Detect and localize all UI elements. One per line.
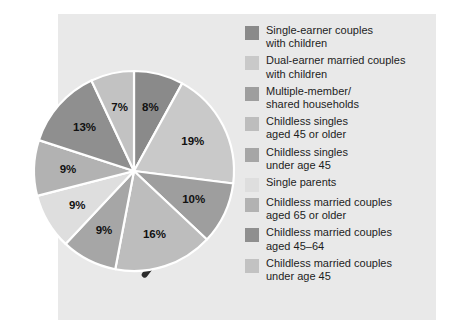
chart-legend: Single-earner couples with childrenDual-… <box>245 24 440 287</box>
pie-slice-value-label: 9% <box>69 199 86 211</box>
legend-color-swatch <box>245 259 259 273</box>
pie-slice-value-label: 8% <box>142 101 159 113</box>
legend-color-swatch <box>245 117 259 131</box>
pie-slice-value-label: 16% <box>143 228 166 240</box>
pie-slice-value-label: 13% <box>73 121 96 133</box>
legend-item[interactable]: Childless singles aged 45 or older <box>245 115 440 141</box>
pie-slice-value-label: 9% <box>60 163 77 175</box>
legend-item[interactable]: Single-earner couples with children <box>245 24 440 50</box>
legend-item-label: Childless married couples aged 45–64 <box>266 226 392 252</box>
pie-slice-value-label: 9% <box>96 224 113 236</box>
legend-item[interactable]: Childless married couples under age 45 <box>245 257 440 283</box>
legend-item[interactable]: Childless married couples aged 65 or old… <box>245 196 440 222</box>
pie-slice-value-label: 10% <box>182 193 205 205</box>
legend-color-swatch <box>245 26 259 40</box>
legend-color-swatch <box>245 178 259 192</box>
legend-item[interactable]: Multiple-member/ shared households <box>245 85 440 111</box>
legend-item-label: Single-earner couples with children <box>266 24 373 50</box>
legend-color-swatch <box>245 87 259 101</box>
legend-item-label: Childless married couples aged 65 or old… <box>266 196 392 222</box>
pie-svg: 8%19%10%16%9%9%9%13%7% <box>18 55 250 287</box>
legend-item-label: Childless singles under age 45 <box>266 146 348 172</box>
legend-color-swatch <box>245 148 259 162</box>
legend-item-label: Childless married couples under age 45 <box>266 257 392 283</box>
legend-item[interactable]: Dual-earner married couples with childre… <box>245 54 440 80</box>
pie-chart-figure: 8%19%10%16%9%9%9%13%7% Single-earner cou… <box>0 0 456 332</box>
legend-color-swatch <box>245 56 259 70</box>
legend-item[interactable]: Single parents <box>245 176 440 192</box>
legend-item[interactable]: Childless singles under age 45 <box>245 146 440 172</box>
legend-item-label: Dual-earner married couples with childre… <box>266 54 405 80</box>
legend-item-label: Childless singles aged 45 or older <box>266 115 348 141</box>
legend-item-label: Single parents <box>266 176 336 189</box>
legend-item-label: Multiple-member/ shared households <box>266 85 359 111</box>
legend-item[interactable]: Childless married couples aged 45–64 <box>245 226 440 252</box>
pie-slice-value-label: 19% <box>181 135 204 147</box>
pie-slice-value-label: 7% <box>111 101 128 113</box>
legend-color-swatch <box>245 228 259 242</box>
legend-color-swatch <box>245 198 259 212</box>
